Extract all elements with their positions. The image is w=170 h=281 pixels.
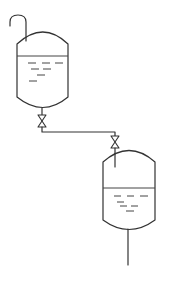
upper-tank: [17, 32, 68, 108]
process-diagram: [0, 0, 170, 281]
lower-tank-shell: [103, 151, 155, 230]
lower-tank: [103, 151, 155, 230]
connecting-pipe: [42, 127, 115, 136]
lower-tank-liquid-ripples: [114, 196, 148, 211]
valve-2-icon[interactable]: [111, 136, 119, 148]
upper-tank-shell: [17, 32, 68, 108]
upper-tank-liquid-ripples: [28, 63, 63, 81]
inlet-hook-pipe: [10, 15, 26, 41]
valve-1-icon[interactable]: [38, 115, 46, 127]
